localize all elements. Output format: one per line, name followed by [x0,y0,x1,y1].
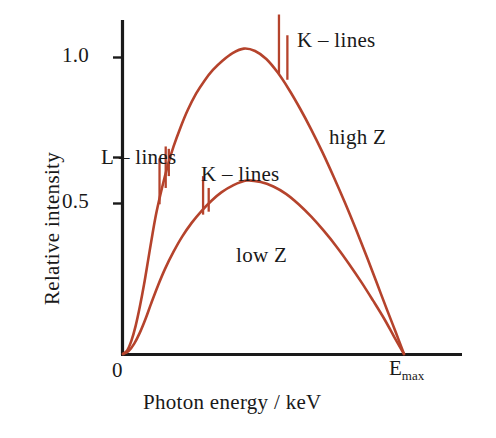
y-axis-title: Relative intensity [40,152,65,305]
curve-high-z [123,49,404,354]
emax-base: E [389,356,402,380]
y-tick-label-0-5: 0.5 [62,191,89,212]
x-axis-title: Photon energy / keV [143,392,322,413]
annotation-k-lines-low-z: K – lines [201,164,280,185]
curve-low-z [123,180,404,354]
annotation-l-lines-high-z: L – lines [101,147,176,168]
annotation-low-z: low Z [236,245,287,266]
annotation-high-z: high Z [329,127,386,148]
x-emax-label: Emax [389,358,424,382]
y-tick-label-1-0: 1.0 [62,45,89,66]
emax-subscript: max [402,368,424,383]
xray-spectrum-figure: 1.0 0.5 Relative intensity 0 Emax Photon… [0,0,496,438]
annotation-k-lines-high-z: K – lines [297,30,376,51]
x-origin-label: 0 [112,360,123,381]
